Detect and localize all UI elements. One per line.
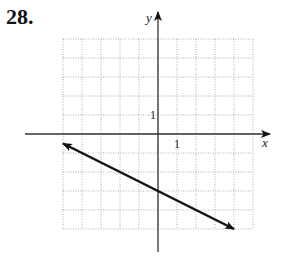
x-tick-label: 1	[174, 137, 180, 151]
x-axis-label: x	[261, 135, 268, 150]
coordinate-plane: x y 1 1	[0, 0, 281, 257]
y-axis-label: y	[144, 10, 152, 25]
plotted-line	[63, 144, 234, 230]
y-tick-label: 1	[150, 108, 156, 122]
